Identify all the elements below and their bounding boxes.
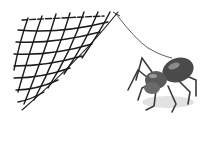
illustration-canvas: Pencil sketch of a spider hanging from a… bbox=[0, 0, 210, 142]
spider-web-icon bbox=[14, 12, 118, 110]
silk-thread bbox=[116, 14, 172, 58]
spider-web-illustration bbox=[0, 0, 210, 142]
spider-icon bbox=[128, 53, 197, 112]
